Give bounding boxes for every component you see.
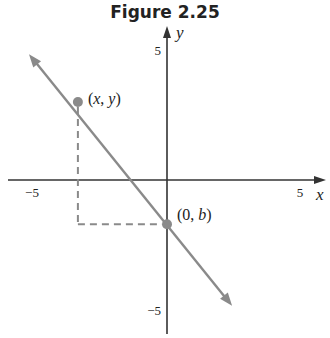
point-label-0-b: (0, b) bbox=[177, 206, 212, 224]
y-tick-label-neg5: −5 bbox=[147, 303, 161, 318]
figure-title: Figure 2.25 bbox=[110, 2, 220, 22]
y-axis-arrow-icon bbox=[163, 26, 171, 38]
x-tick-label-5: 5 bbox=[297, 185, 304, 200]
x-axis-arrow-icon bbox=[314, 176, 326, 184]
point-label-x-y: (x, y) bbox=[88, 90, 121, 108]
point-x-y bbox=[73, 97, 83, 107]
figure-2-25: Figure 2.25 x y −5 5 5 −5 (x, y) (0, b) bbox=[0, 0, 330, 338]
y-tick-label-5: 5 bbox=[155, 43, 162, 58]
x-tick-label-neg5: −5 bbox=[25, 185, 39, 200]
x-axis-label: x bbox=[315, 185, 324, 204]
point-0-b bbox=[162, 219, 172, 229]
y-axis-label: y bbox=[174, 23, 184, 42]
